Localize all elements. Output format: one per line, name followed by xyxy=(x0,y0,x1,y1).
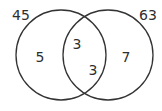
left-only-value: 5 xyxy=(36,49,45,65)
intersection-value-lower: 3 xyxy=(89,62,98,78)
right-set-circle xyxy=(63,10,153,100)
venn-diagram: 45 63 5 7 3 3 xyxy=(0,0,162,111)
right-only-value: 7 xyxy=(122,49,131,65)
right-set-label: 63 xyxy=(139,7,157,23)
intersection-value-upper: 3 xyxy=(73,36,82,52)
left-set-circle xyxy=(16,10,106,100)
left-set-label: 45 xyxy=(12,7,30,23)
